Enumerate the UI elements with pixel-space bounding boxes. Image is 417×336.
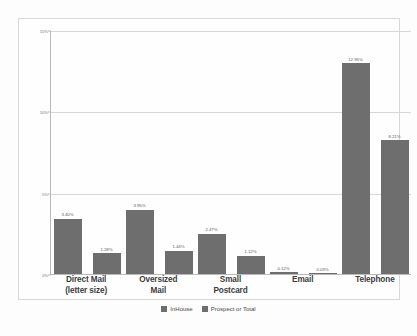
- x-axis-category-label: Telephone: [339, 275, 411, 296]
- bar-container: 3.40%: [54, 31, 82, 274]
- legend-label: InHouse: [170, 306, 192, 312]
- bar-group: 0.12%0.03%: [267, 31, 339, 274]
- bar-container: 0.03%: [309, 31, 337, 274]
- bar[interactable]: [309, 273, 337, 274]
- legend-item[interactable]: InHouse: [161, 306, 192, 312]
- bar[interactable]: [342, 63, 370, 274]
- bar-value-label: 8.21%: [388, 134, 400, 139]
- x-axis-category-line: Small: [194, 275, 266, 286]
- bar[interactable]: [237, 256, 265, 274]
- bar-group: 3.95%1.44%: [123, 31, 195, 274]
- legend-item[interactable]: Prospect or Total: [202, 306, 256, 312]
- bar[interactable]: [165, 251, 193, 274]
- y-axis-tick-label: 0%: [42, 273, 48, 278]
- bar-value-label: 12.95%: [348, 57, 363, 62]
- bar-container: 12.95%: [342, 31, 370, 274]
- bar-value-label: 3.95%: [133, 203, 145, 208]
- x-axis-category-line: Postcard: [194, 286, 266, 297]
- chart-canvas: 15%10%5%0% 3.40%1.28%3.95%1.44%2.47%1.12…: [0, 0, 417, 336]
- x-axis-category-label: OversizedMail: [122, 275, 194, 296]
- y-axis-tick-label: 10%: [40, 110, 48, 115]
- bar-container: 0.12%: [270, 31, 298, 274]
- bar-value-label: 1.44%: [172, 244, 184, 249]
- x-axis-category-label: Email: [267, 275, 339, 296]
- bar-group: 2.47%1.12%: [195, 31, 267, 274]
- legend-swatch-icon: [202, 306, 208, 312]
- bar-container: 3.95%: [126, 31, 154, 274]
- bar-value-label: 1.28%: [100, 247, 112, 252]
- bar-container: 1.28%: [93, 31, 121, 274]
- legend-label: Prospect or Total: [211, 306, 256, 312]
- bar-group: 3.40%1.28%: [51, 31, 123, 274]
- bar-container: 2.47%: [198, 31, 226, 274]
- chart-frame: 15%10%5%0% 3.40%1.28%3.95%1.44%2.47%1.12…: [18, 18, 400, 300]
- x-axis-category-line: Email: [267, 275, 339, 286]
- bar[interactable]: [270, 272, 298, 274]
- bar[interactable]: [93, 253, 121, 274]
- bar-value-label: 0.03%: [316, 267, 328, 272]
- bar-value-label: 1.12%: [244, 249, 256, 254]
- bar-value-label: 2.47%: [205, 227, 217, 232]
- x-axis-labels: Direct Mail(letter size)OversizedMailSma…: [50, 275, 411, 296]
- bar-container: 1.12%: [237, 31, 265, 274]
- x-axis-category-line: Telephone: [339, 275, 411, 286]
- bar-value-label: 3.40%: [61, 212, 73, 217]
- bar-value-label: 0.12%: [277, 266, 289, 271]
- bar[interactable]: [198, 234, 226, 274]
- legend-swatch-icon: [161, 306, 167, 312]
- bar-container: 1.44%: [165, 31, 193, 274]
- x-axis-category-line: Mail: [122, 286, 194, 297]
- x-axis-category-label: SmallPostcard: [194, 275, 266, 296]
- y-axis-tick-label: 15%: [40, 29, 48, 34]
- x-axis-category-label: Direct Mail(letter size): [50, 275, 122, 296]
- bar-container: 8.21%: [381, 31, 409, 274]
- x-axis-category-line: Oversized: [122, 275, 194, 286]
- bar[interactable]: [381, 140, 409, 274]
- bar-group: 12.95%8.21%: [339, 31, 411, 274]
- bar-groups: 3.40%1.28%3.95%1.44%2.47%1.12%0.12%0.03%…: [51, 31, 411, 274]
- y-axis-tick-label: 5%: [42, 191, 48, 196]
- x-axis-category-line: (letter size): [50, 286, 122, 297]
- x-axis-category-line: Direct Mail: [50, 275, 122, 286]
- bar[interactable]: [54, 219, 82, 274]
- plot-area: 15%10%5%0% 3.40%1.28%3.95%1.44%2.47%1.12…: [50, 31, 411, 275]
- bar[interactable]: [126, 210, 154, 274]
- chart-legend: InHouseProspect or Total: [0, 306, 417, 312]
